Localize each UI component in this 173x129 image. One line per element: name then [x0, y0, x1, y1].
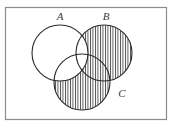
circle-label-b: B: [103, 10, 110, 22]
circle-label-a: A: [56, 10, 64, 22]
venn-diagram-canvas: A B C: [0, 0, 173, 129]
venn-diagram-figure: A B C: [0, 0, 173, 129]
circle-label-c: C: [118, 87, 126, 99]
